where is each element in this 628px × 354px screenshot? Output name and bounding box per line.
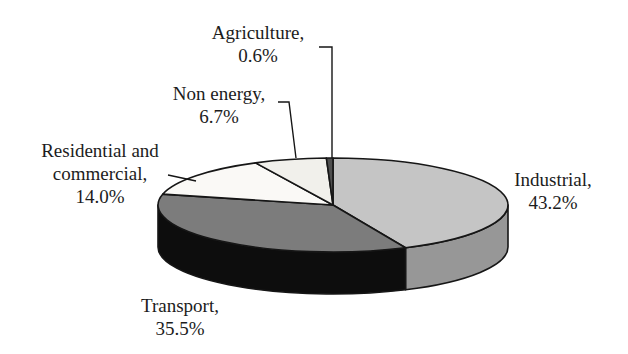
slice-label-transport-line-0: Transport, [141,295,219,316]
slice-label-agriculture-line-0: Agriculture, [212,22,304,43]
slice-label-transport-line-1: 35.5% [155,318,204,339]
slice-label-residential-and-commercial-line-0: Residential and [41,140,159,161]
slice-label-non-energy-line-0: Non energy, [173,83,265,104]
slice-label-agriculture-line-1: 0.6% [238,45,278,66]
leader-line-non-energy [278,102,296,158]
slice-label-industrial-line-0: Industrial, [514,169,592,190]
slice-label-residential-and-commercial-line-1: commercial, [53,163,147,184]
pie-chart-3d: Industrial,43.2%Transport,35.5%Residenti… [0,0,628,354]
slice-label-non-energy-line-1: 6.7% [199,106,239,127]
slice-label-residential-and-commercial-line-2: 14.0% [75,186,124,207]
slice-label-industrial-line-1: 43.2% [528,192,577,213]
leader-line-agriculture [319,47,332,158]
energy-consumption-pie-figure: Industrial,43.2%Transport,35.5%Residenti… [0,0,628,354]
